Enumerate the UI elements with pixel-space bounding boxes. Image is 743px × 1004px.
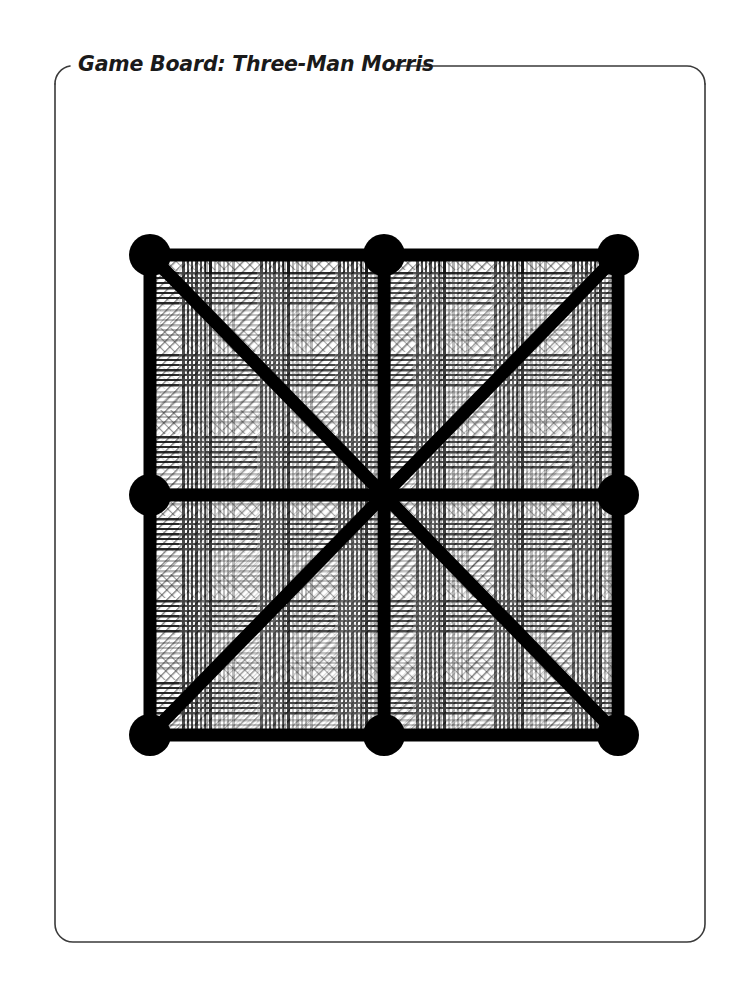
game-board-figure	[120, 225, 650, 770]
board-point-top-center[interactable]	[363, 234, 405, 276]
board-point-bottom-right[interactable]	[597, 714, 639, 756]
board-point-middle-right[interactable]	[597, 474, 639, 516]
board-point-middle-left[interactable]	[129, 474, 171, 516]
three-man-morris-diagram	[120, 225, 650, 770]
board-lines	[150, 255, 618, 735]
board-point-top-right[interactable]	[597, 234, 639, 276]
frame-top-line	[392, 66, 705, 84]
board-point-bottom-center[interactable]	[363, 714, 405, 756]
page-title: Game Board: Three-Man Morris	[78, 50, 434, 78]
frame-top-left-corner	[55, 66, 70, 84]
board-point-top-left[interactable]	[129, 234, 171, 276]
board-point-bottom-left[interactable]	[129, 714, 171, 756]
page-canvas: Game Board: Three-Man Morris	[0, 0, 743, 1004]
